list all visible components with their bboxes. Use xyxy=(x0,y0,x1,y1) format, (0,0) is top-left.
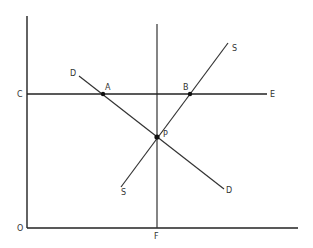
label-d-top: D xyxy=(70,69,76,78)
label-s-top: S xyxy=(232,44,237,53)
label-c: C xyxy=(17,90,23,99)
label-p: P xyxy=(163,130,168,139)
demand-curve xyxy=(79,76,224,189)
label-e: E xyxy=(270,90,275,99)
label-f: F xyxy=(154,232,159,241)
point-p-marker xyxy=(154,134,159,139)
label-s-bottom: S xyxy=(121,188,126,197)
label-a: A xyxy=(105,83,111,92)
label-d-bottom: D xyxy=(226,186,232,195)
label-origin: O xyxy=(17,224,23,233)
supply-curve xyxy=(121,43,228,187)
point-b-marker xyxy=(188,92,192,96)
supply-demand-diagram: C O F E D D S S A B P xyxy=(0,0,313,248)
point-a-marker xyxy=(101,92,105,96)
label-b: B xyxy=(183,83,189,92)
